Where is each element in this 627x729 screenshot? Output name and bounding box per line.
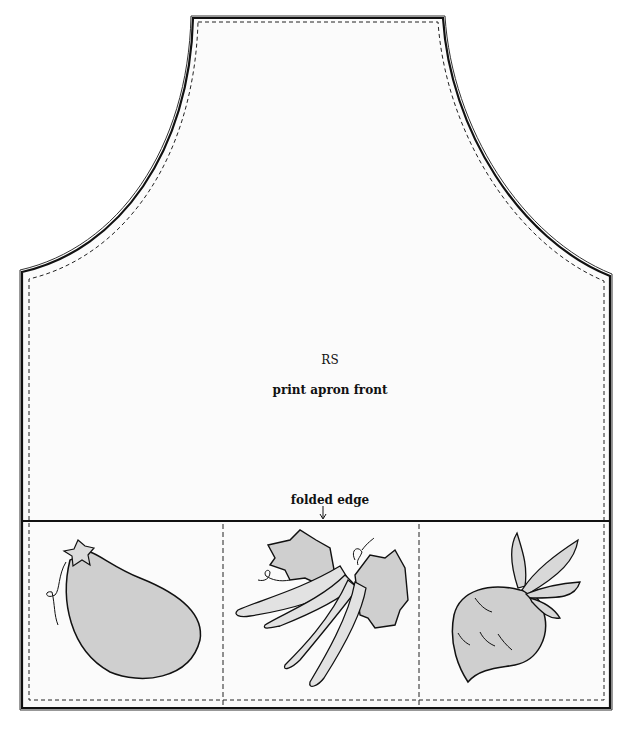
folded-edge-label: folded edge xyxy=(270,493,390,507)
apron-pattern-diagram: RS print apron front folded edge xyxy=(0,0,627,729)
piece-name-label: print apron front xyxy=(245,383,415,397)
right-side-label: RS xyxy=(300,353,360,367)
